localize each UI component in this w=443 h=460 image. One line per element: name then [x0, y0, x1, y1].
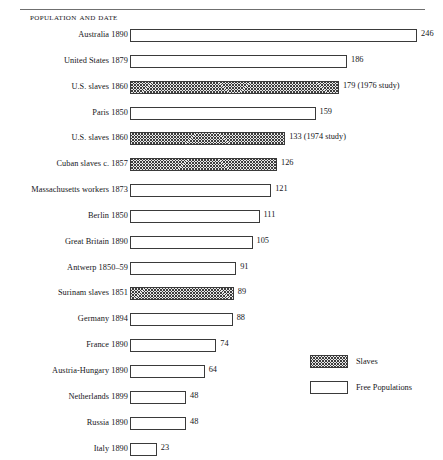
bar-value-label: 88: [237, 313, 245, 322]
bar-row-label: U.S. slaves 1860: [71, 82, 128, 91]
bar-row-label: United States 1879: [64, 56, 128, 65]
bar-row-label: Great Britain 1890: [65, 237, 128, 246]
chart-title: Population and Date: [30, 12, 118, 22]
bar-value-label: 246: [421, 29, 433, 38]
bar-row-label: Germany 1894: [78, 314, 128, 323]
bar-free: [130, 365, 205, 378]
bar-wrapper: [130, 417, 186, 430]
bar-wrapper: [130, 391, 186, 404]
bar-row-label: Austria-Hungary 1890: [52, 366, 128, 375]
bar-wrapper: [130, 184, 271, 197]
bar-free: [130, 443, 157, 456]
bar-row-label: Italy 1890: [94, 444, 128, 453]
bar-row: Antwerp 1850–5991: [0, 260, 443, 286]
bar-wrapper: [130, 339, 216, 352]
bar-row-label: Massachusetts workers 1873: [31, 185, 128, 194]
bar-row: Berlin 1850111: [0, 208, 443, 234]
bar-wrapper: [130, 55, 347, 68]
bar-free: [130, 391, 186, 404]
bar-slaves: [130, 132, 285, 145]
bar-row-label: U.S. slaves 1860: [71, 133, 128, 142]
legend-label: Slaves: [356, 357, 378, 366]
bar-free: [130, 339, 216, 352]
bar-wrapper: [130, 236, 253, 249]
bar-wrapper: [130, 365, 205, 378]
bar-row-label: Antwerp 1850–59: [67, 263, 128, 272]
bar-wrapper: [130, 81, 339, 94]
bar-row-label: Netherlands 1899: [68, 392, 128, 401]
bar-wrapper: [130, 132, 285, 145]
bar-free: [130, 262, 236, 275]
chart-legend: SlavesFree Populations: [310, 355, 443, 407]
bar-wrapper: [130, 443, 157, 456]
bar-value-label: 111: [264, 210, 276, 219]
bar-value-label: 126: [281, 158, 293, 167]
bar-row: Cuban slaves c. 1857126: [0, 156, 443, 182]
bar-free: [130, 55, 347, 68]
bar-row: Australia 1890246: [0, 27, 443, 53]
bar-free: [130, 107, 316, 120]
bar-value-label: 186: [351, 55, 363, 64]
bar-row: Surinam slaves 185189: [0, 285, 443, 311]
bar-value-label: 48: [190, 391, 198, 400]
bar-slaves: [130, 158, 277, 171]
bar-row: Massachusetts workers 1873121: [0, 182, 443, 208]
bar-value-label: 121: [275, 184, 287, 193]
bar-slaves: [130, 287, 234, 300]
bar-wrapper: [130, 313, 233, 326]
header-rule: [20, 9, 425, 10]
bar-row-label: Surinam slaves 1851: [58, 288, 128, 297]
bar-value-label: 179 (1976 study): [343, 81, 400, 90]
bar-wrapper: [130, 262, 236, 275]
bar-row-label: Berlin 1850: [88, 211, 128, 220]
bar-row: U.S. slaves 1860179 (1976 study): [0, 79, 443, 105]
bar-slaves: [130, 81, 339, 94]
bar-free: [130, 29, 417, 42]
bar-value-label: 159: [320, 107, 332, 116]
legend-swatch-free: [310, 381, 348, 394]
bar-value-label: 64: [209, 365, 217, 374]
bar-row: Great Britain 1890105: [0, 234, 443, 260]
bar-row: Russia 189048: [0, 415, 443, 441]
bar-value-label: 105: [257, 236, 269, 245]
legend-label: Free Populations: [356, 383, 412, 392]
bar-wrapper: [130, 29, 417, 42]
bar-wrapper: [130, 210, 260, 223]
bar-row: Italy 189023: [0, 441, 443, 460]
bar-free: [130, 313, 233, 326]
bar-value-label: 89: [238, 287, 246, 296]
bar-row: Paris 1850159: [0, 105, 443, 131]
bar-value-label: 23: [161, 443, 169, 452]
bar-wrapper: [130, 107, 316, 120]
bar-row: United States 1879186: [0, 53, 443, 79]
bar-value-label: 74: [220, 339, 228, 348]
bar-wrapper: [130, 287, 234, 300]
legend-swatch-slaves: [310, 355, 348, 368]
bar-value-label: 91: [240, 262, 248, 271]
bar-wrapper: [130, 158, 277, 171]
bar-row-label: Paris 1850: [92, 108, 128, 117]
bar-value-label: 133 (1974 study): [289, 132, 346, 141]
bar-value-label: 48: [190, 417, 198, 426]
bar-free: [130, 417, 186, 430]
legend-item-free: Free Populations: [310, 381, 443, 394]
bar-row-label: Cuban slaves c. 1857: [56, 159, 128, 168]
bar-row: Germany 189488: [0, 311, 443, 337]
legend-item-slaves: Slaves: [310, 355, 443, 368]
bar-row-label: Russia 1890: [87, 418, 128, 427]
bar-row-label: France 1890: [86, 340, 128, 349]
bar-free: [130, 210, 260, 223]
bar-free: [130, 236, 253, 249]
bar-row-label: Australia 1890: [78, 30, 128, 39]
bar-free: [130, 184, 271, 197]
bar-row: U.S. slaves 1860133 (1974 study): [0, 130, 443, 156]
